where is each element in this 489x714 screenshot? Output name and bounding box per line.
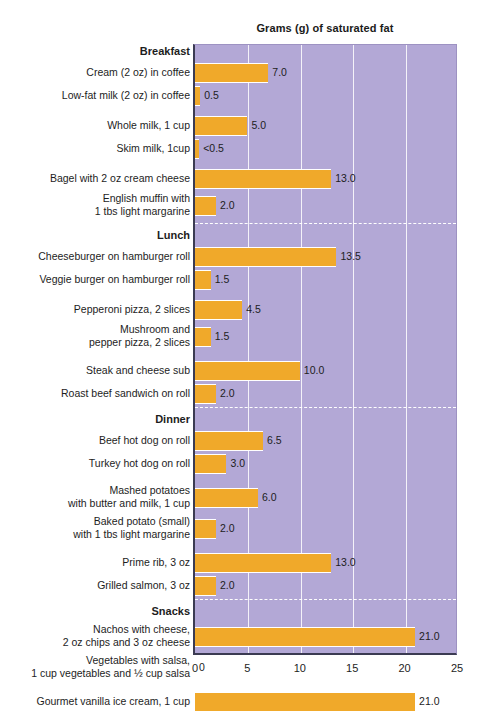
row-label: Gourmet vanilla ice cream, 1 cup: [0, 695, 190, 708]
row-label: Turkey hot dog on roll: [0, 457, 190, 470]
bar: [195, 384, 216, 404]
row-label: Mashed potatoes with butter and milk, 1 …: [0, 484, 190, 510]
row-label: Mushroom and pepper pizza, 2 slices: [0, 323, 190, 349]
section-header-breakfast: Breakfast: [0, 45, 190, 58]
bar: [195, 139, 199, 159]
bar-value-label: 3.0: [230, 457, 245, 469]
row-label: Baked potato (small) with 1 tbs light ma…: [0, 515, 190, 541]
bar: [195, 361, 300, 381]
bar: [195, 627, 415, 647]
bar: [195, 553, 331, 573]
row-label: Nachos with cheese, 2 oz chips and 3 oz …: [0, 623, 190, 649]
bar-value-label: 13.0: [335, 172, 355, 184]
row-label: Cream (2 oz) in coffee: [0, 66, 190, 79]
row-label: Cheeseburger on hamburger roll: [0, 250, 190, 263]
row-label: Beef hot dog on roll: [0, 434, 190, 447]
section-divider: [195, 599, 456, 600]
bar-value-label: 5.0: [251, 119, 266, 131]
bar: [195, 63, 268, 83]
bar-value-label: 1.5: [215, 273, 230, 285]
row-label: Prime rib, 3 oz: [0, 556, 190, 569]
bar: [195, 488, 258, 508]
bar-value-label: 21.0: [419, 695, 439, 707]
bar-value-label: 2.0: [220, 387, 235, 399]
bar-value-label: 0.5: [204, 89, 219, 101]
row-label: Steak and cheese sub: [0, 364, 190, 377]
x-tick-label-20: 20: [398, 662, 410, 674]
section-divider: [195, 407, 456, 408]
bar: [195, 270, 211, 290]
row-label: Low-fat milk (2 oz) in coffee: [0, 89, 190, 102]
bar-value-label: 13.0: [335, 556, 355, 568]
row-label: Whole milk, 1 cup: [0, 119, 190, 132]
bar-value-label: 2.0: [220, 579, 235, 591]
bar: [195, 692, 415, 712]
saturated-fat-bar-chart: Grams (g) of saturated fat BreakfastCrea…: [0, 0, 489, 714]
row-label: English muffin with 1 tbs light margarin…: [0, 192, 190, 218]
row-label: Skim milk, 1cup: [0, 142, 190, 155]
bar-value-label: <0.5: [203, 142, 224, 154]
row-label: Veggie burger on hamburger roll: [0, 273, 190, 286]
section-header-snacks: Snacks: [0, 605, 190, 618]
bar: [195, 196, 216, 216]
bar-value-label: 21.0: [419, 630, 439, 642]
gridline-20: [406, 45, 407, 653]
bar: [195, 169, 331, 189]
x-tick-label-15: 15: [346, 662, 358, 674]
bar-value-label: 13.5: [340, 250, 360, 262]
x-tick-label-5: 5: [244, 662, 250, 674]
row-label: Roast beef sandwich on roll: [0, 387, 190, 400]
section-header-lunch: Lunch: [0, 229, 190, 242]
x-tick-label-10: 10: [294, 662, 306, 674]
bar: [195, 300, 242, 320]
bar: [195, 454, 226, 474]
chart-title: Grams (g) of saturated fat: [193, 22, 457, 34]
bar-value-label: 2.0: [220, 199, 235, 211]
bar: [195, 327, 211, 347]
row-label: Vegetables with salsa, 1 cup vegetables …: [0, 654, 190, 680]
section-divider: [195, 223, 456, 224]
row-label: Bagel with 2 oz cream cheese: [0, 172, 190, 185]
bar-value-label: 6.5: [267, 434, 282, 446]
bar-value-label: 10.0: [304, 364, 324, 376]
x-tick-label-25: 25: [451, 662, 463, 674]
bar: [195, 247, 336, 267]
bar-value-label: 0: [199, 661, 205, 673]
bar: [195, 431, 263, 451]
row-label: Grilled salmon, 3 oz: [0, 579, 190, 592]
row-label: Pepperoni pizza, 2 slices: [0, 303, 190, 316]
bar: [195, 576, 216, 596]
bar: [195, 116, 247, 136]
bar: [195, 86, 200, 106]
bar-value-label: 4.5: [246, 303, 261, 315]
bar-value-label: 6.0: [262, 491, 277, 503]
bar-value-label: 1.5: [215, 330, 230, 342]
bar: [195, 519, 216, 539]
section-header-dinner: Dinner: [0, 413, 190, 426]
x-tick-label-0: 0: [192, 662, 198, 674]
bar-value-label: 2.0: [220, 522, 235, 534]
bar-value-label: 7.0: [272, 66, 287, 78]
